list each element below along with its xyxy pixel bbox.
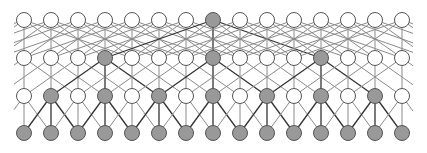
empty-node-layer-2 — [152, 51, 167, 66]
empty-node-layer-1 — [179, 13, 194, 28]
empty-node-layer-2 — [17, 51, 32, 66]
empty-node-layer-3 — [71, 89, 86, 104]
empty-node-layer-2 — [44, 51, 59, 66]
filled-node-layer-4 — [233, 126, 248, 141]
empty-node-layer-1 — [395, 13, 410, 28]
empty-node-layer-1 — [125, 13, 140, 28]
filled-node-layer-4 — [125, 126, 140, 141]
empty-node-layer-2 — [341, 51, 356, 66]
filled-node-layer-3 — [206, 89, 221, 104]
filled-node-layer-1 — [206, 13, 221, 28]
filled-node-layer-4 — [395, 126, 410, 141]
empty-node-layer-3 — [395, 89, 410, 104]
lattice-diagram — [0, 0, 427, 153]
empty-node-layer-2 — [71, 51, 86, 66]
empty-node-layer-2 — [395, 51, 410, 66]
empty-node-layer-1 — [287, 13, 302, 28]
empty-node-layer-3 — [287, 89, 302, 104]
empty-node-layer-1 — [260, 13, 275, 28]
filled-node-layer-3 — [260, 89, 275, 104]
empty-node-layer-1 — [152, 13, 167, 28]
empty-node-layer-1 — [341, 13, 356, 28]
filled-node-layer-4 — [17, 126, 32, 141]
filled-node-layer-4 — [179, 126, 194, 141]
empty-node-layer-3 — [179, 89, 194, 104]
empty-node-layer-2 — [287, 51, 302, 66]
empty-node-layer-2 — [125, 51, 140, 66]
filled-node-layer-4 — [152, 126, 167, 141]
filled-node-layer-4 — [314, 126, 329, 141]
empty-node-layer-2 — [260, 51, 275, 66]
filled-node-layer-3 — [368, 89, 383, 104]
empty-node-layer-1 — [233, 13, 248, 28]
empty-node-layer-3 — [233, 89, 248, 104]
filled-node-layer-2 — [98, 51, 113, 66]
empty-node-layer-1 — [71, 13, 86, 28]
filled-node-layer-3 — [44, 89, 59, 104]
filled-node-layer-4 — [287, 126, 302, 141]
filled-node-layer-4 — [98, 126, 113, 141]
filled-node-layer-3 — [98, 89, 113, 104]
empty-node-layer-2 — [368, 51, 383, 66]
filled-node-layer-3 — [152, 89, 167, 104]
empty-node-layer-3 — [17, 89, 32, 104]
empty-node-layer-1 — [368, 13, 383, 28]
empty-node-layer-2 — [233, 51, 248, 66]
empty-node-layer-1 — [314, 13, 329, 28]
filled-node-layer-4 — [206, 126, 221, 141]
empty-node-layer-3 — [125, 89, 140, 104]
empty-node-layer-3 — [341, 89, 356, 104]
filled-node-layer-4 — [260, 126, 275, 141]
filled-node-layer-4 — [341, 126, 356, 141]
empty-node-layer-1 — [98, 13, 113, 28]
filled-node-layer-2 — [314, 51, 329, 66]
filled-node-layer-3 — [314, 89, 329, 104]
edges — [14, 20, 413, 133]
filled-node-layer-4 — [368, 126, 383, 141]
empty-node-layer-1 — [17, 13, 32, 28]
filled-node-layer-2 — [206, 51, 221, 66]
empty-node-layer-1 — [44, 13, 59, 28]
filled-node-layer-4 — [71, 126, 86, 141]
empty-node-layer-2 — [179, 51, 194, 66]
filled-node-layer-4 — [44, 126, 59, 141]
